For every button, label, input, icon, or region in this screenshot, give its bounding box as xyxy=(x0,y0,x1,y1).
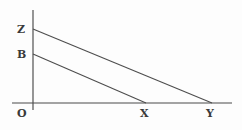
point-label-z: Z xyxy=(17,24,25,35)
segment-b-to-x xyxy=(33,54,146,103)
point-label-y: Y xyxy=(206,108,214,119)
point-label-b: B xyxy=(17,49,27,60)
point-label-x: X xyxy=(140,108,149,119)
point-label-o: O xyxy=(17,108,27,119)
geometry-figure: Z B O X Y xyxy=(0,0,242,130)
